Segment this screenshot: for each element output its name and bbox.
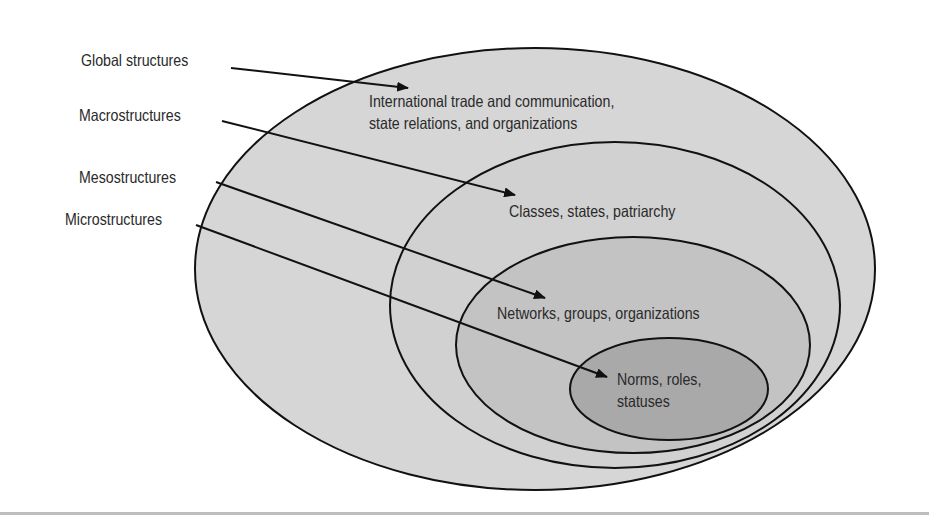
label-macrostructures: Macrostructures [79, 105, 181, 126]
macro-description: Classes, states, patriarchy [509, 201, 675, 222]
footer-divider [0, 512, 929, 515]
global-description-line-2: state relations, and organizations [369, 113, 577, 134]
label-microstructures: Microstructures [65, 209, 162, 230]
label-global-structures: Global structures [81, 50, 188, 71]
nested-structures-diagram [0, 0, 929, 532]
micro-description-line-2: statuses [617, 391, 670, 412]
meso-description: Networks, groups, organizations [497, 303, 700, 324]
global-description-line-1: International trade and communication, [369, 91, 614, 112]
micro-description-line-1: Norms, roles, [617, 369, 701, 390]
label-mesostructures: Mesostructures [79, 167, 176, 188]
